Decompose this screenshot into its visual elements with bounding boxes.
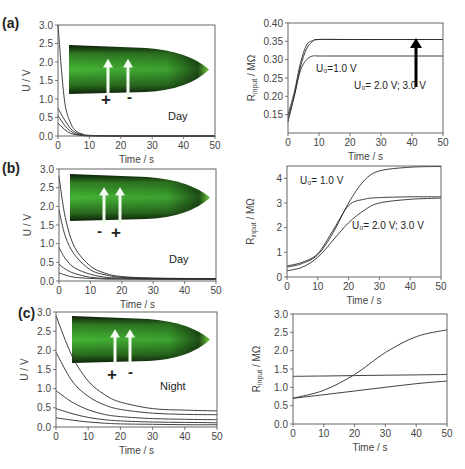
chart-b-left: 010203040500.00.51.01.52.02.53.0Time / s… [22,164,222,311]
y-tick-label: 2 [276,222,282,233]
x-tick-label: 10 [312,281,324,292]
series-line [58,116,215,136]
leaf-image [70,174,210,225]
y-tick-label: 1.0 [40,238,54,249]
x-axis-label: Time / s [352,442,387,453]
chart-c-left: 010203040500.00.51.01.52.02.53.0Time / s… [19,307,223,457]
y-tick-label: 3.0 [40,164,54,175]
y-tick-label: 0.0 [274,419,288,430]
y-tick-label: 2.0 [39,57,53,68]
panel-label-b: (b) [2,160,20,176]
electrode-right-a: - [127,88,132,105]
x-tick-label: 20 [115,431,127,442]
x-axis-label: Time / s [119,154,154,165]
series-line [287,197,441,266]
y-tick-label: 3.0 [274,309,288,320]
series-line [58,108,215,136]
x-tick-label: 10 [313,137,325,148]
y-tick-label: 0.25 [264,73,284,84]
y-tick-label: 2.5 [40,182,54,193]
chart-b-right: 0102030405001234Time / sRinput / MΩ [245,166,447,306]
y-tick-label: 0.5 [40,257,54,268]
x-tick-label: 50 [437,137,449,148]
figure-canvas: 010203040500.00.51.01.52.02.53.0Time / s… [0,0,465,469]
x-axis-label: Time / s [119,445,154,456]
y-tick-label: 0.30 [264,54,284,65]
y-axis-label: Rinput / MΩ [245,198,258,245]
x-tick-label: 30 [374,281,386,292]
leaf-image [69,45,209,98]
y-tick-label: 3 [276,198,282,209]
x-tick-label: 40 [178,140,190,151]
electrode-left-c: + [107,365,117,385]
x-tick-label: 50 [210,285,222,296]
x-tick-label: 10 [84,140,96,151]
y-tick-label: 2.0 [37,345,51,356]
y-axis-label: U / V [22,214,33,237]
leaf-image [72,316,210,367]
x-tick-label: 0 [56,285,62,296]
y-tick-label: 0.5 [39,112,53,123]
electrode-right-c: - [128,363,133,380]
y-tick-label: 4 [276,173,282,184]
y-tick-label: 2.5 [37,326,51,337]
x-tick-label: 30 [380,428,392,439]
x-tick-label: 10 [83,431,95,442]
y-tick-label: 2.0 [274,345,288,356]
condition-label-b: Day [169,253,189,265]
condition-label-a: Day [168,110,188,122]
x-axis-label: Time / s [120,299,155,310]
chart-a-left: 010203040500.00.51.01.52.02.53.0Time / s… [21,20,221,166]
y-axis-label: U / V [21,69,32,92]
chart-c-right: 010203040500.00.51.01.52.02.53.0Time / s… [251,309,453,454]
y-axis-label: Rinput / MΩ [246,54,259,101]
x-tick-label: 20 [344,137,356,148]
x-axis-label: Time / s [346,295,381,306]
series-line [293,375,447,377]
x-tick-label: 40 [179,285,191,296]
x-tick-label: 20 [349,428,361,439]
x-tick-label: 0 [285,137,291,148]
y-tick-label: 0.35 [264,36,284,47]
y-tick-label: 1.0 [39,94,53,105]
x-tick-label: 40 [411,428,423,439]
x-tick-label: 30 [147,431,159,442]
y-tick-label: 3.0 [39,20,53,31]
y-tick-label: 0.15 [264,109,284,120]
panel-label-a: (a) [2,15,19,31]
y-tick-label: 2.0 [40,201,54,212]
condition-label-c: Night [160,380,186,392]
x-tick-label: 30 [147,140,159,151]
electrode-left-a: + [101,90,111,110]
y-tick-label: 3.0 [37,307,51,318]
y-tick-label: 0.20 [264,91,284,102]
annotation-u23-a: U₀= 2.0 V; 3.0 V [354,80,426,91]
x-tick-label: 30 [148,285,160,296]
x-tick-label: 0 [53,431,59,442]
panel-label-c: (c) [18,305,35,321]
y-axis-label: U / V [19,358,30,381]
y-tick-label: 0.0 [40,276,54,287]
series-line [293,381,447,398]
y-axis-label: Rinput / MΩ [251,345,264,392]
y-tick-label: 1.0 [37,383,51,394]
x-tick-label: 0 [290,428,296,439]
y-tick-label: 1 [276,247,282,258]
x-tick-label: 30 [375,137,387,148]
x-tick-label: 20 [343,281,355,292]
y-tick-label: 0.0 [39,131,53,142]
y-tick-label: 2.5 [274,327,288,338]
x-tick-label: 10 [85,285,97,296]
x-tick-label: 50 [211,431,223,442]
x-tick-label: 50 [209,140,221,151]
y-tick-label: 1.5 [37,364,51,375]
x-tick-label: 10 [318,428,330,439]
x-tick-label: 40 [405,281,417,292]
y-tick-label: 1.5 [274,364,288,375]
x-tick-label: 0 [284,281,290,292]
x-tick-label: 50 [441,428,453,439]
y-tick-label: 2.5 [39,38,53,49]
y-tick-label: 1.5 [39,75,53,86]
y-tick-label: 0.0 [37,422,51,433]
x-tick-label: 20 [116,285,128,296]
